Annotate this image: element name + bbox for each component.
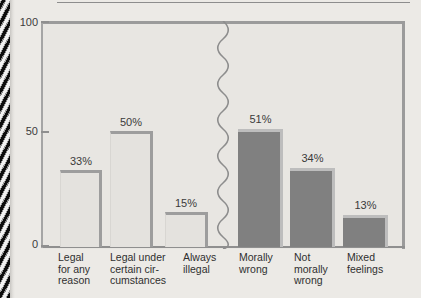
y-tick-mark-100 [41,21,49,23]
bar-value-legal-for-any-reason: 33% [58,155,104,167]
x-label-not-morally-wrong: Not morally wrong [294,252,346,287]
bar-legal-under-certain-circumstances [110,131,153,247]
bar-value-legal-under-certain-circumstances: 50% [108,116,154,128]
page-edge-shadow [10,0,15,298]
x-label-mixed-feelings: Mixed feelings [347,252,403,275]
y-tick-mark-50 [41,131,49,133]
x-label-legal-under-certain-circumstances: Legal under certain cir- cumstances [110,252,180,287]
page-edge-stripes [0,0,10,298]
x-label-line: Morally [239,252,291,264]
x-label-line: Legal under [110,252,180,264]
bar-legal-for-any-reason [60,170,102,247]
x-label-line: feelings [347,264,403,276]
x-label-line: Not [294,252,346,264]
bar-not-morally-wrong [290,168,335,247]
y-tick-mark-0 [41,245,49,247]
x-label-line: illegal [183,264,227,276]
x-label-legal-for-any-reason: Legal for any reason [58,252,106,287]
bar-value-not-morally-wrong: 34% [288,152,337,164]
bar-value-always-illegal: 15% [163,197,209,209]
top-divider-rule [57,2,410,3]
x-label-line: Legal [58,252,106,264]
bar-mixed-feelings [343,215,388,247]
plot-frame-right [402,21,405,249]
x-label-line: Mixed [347,252,403,264]
x-label-morally-wrong: Morally wrong [239,252,291,275]
x-label-always-illegal: Always illegal [183,252,227,275]
plot-frame-left [41,21,43,248]
x-label-line: wrong [239,264,291,276]
y-tick-label-0: 0 [12,238,38,250]
bar-morally-wrong [238,129,283,247]
x-label-line: wrong [294,275,346,287]
y-tick-label-100: 100 [12,16,38,28]
x-label-line: Always [183,252,227,264]
bar-value-mixed-feelings: 13% [341,199,390,211]
x-label-line: reason [58,275,106,287]
wavy-separator-icon [212,21,234,249]
y-tick-label-50: 50 [12,125,38,137]
bar-always-illegal [165,212,208,247]
x-label-line: cumstances [110,275,180,287]
bar-value-morally-wrong: 51% [236,113,285,125]
